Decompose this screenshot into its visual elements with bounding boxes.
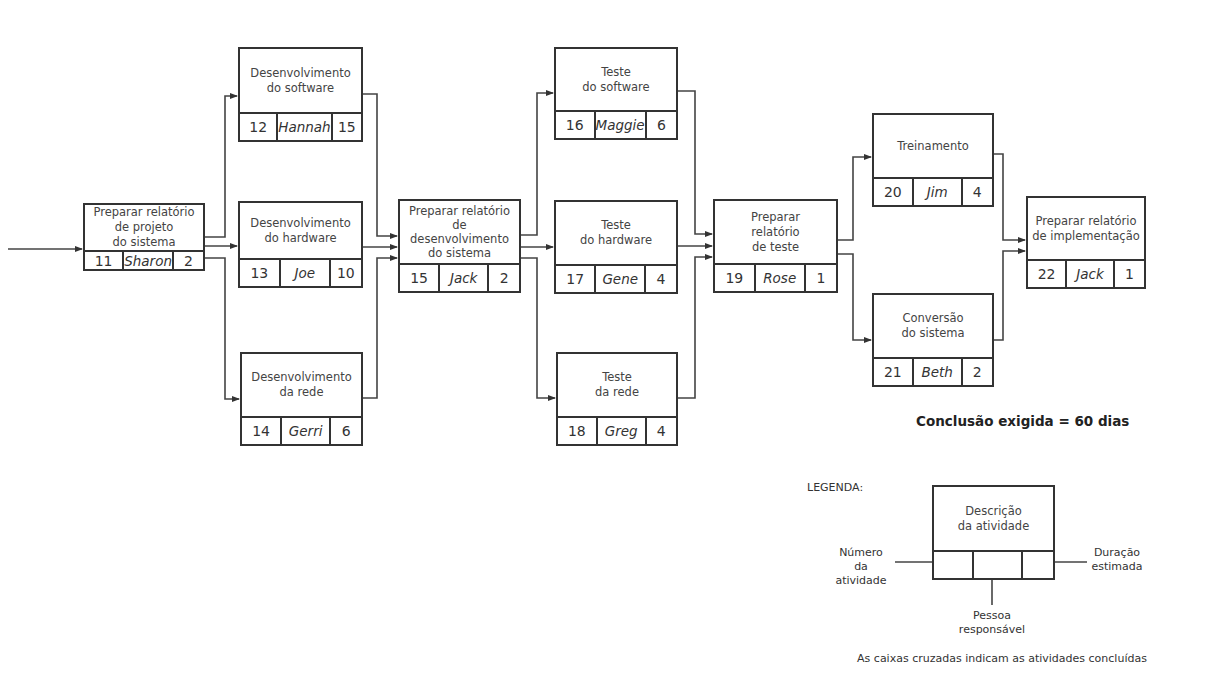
- activity-number: 19: [715, 265, 756, 291]
- activity-node-13: Desenvolvimento do hardware 13Joe10: [238, 201, 363, 288]
- activity-node-15: Preparar relatório de desenvolvimento do…: [398, 199, 521, 293]
- activity-description: Preparar relatório de desenvolvimento do…: [400, 201, 519, 263]
- activity-description: Preparar relatório de teste: [715, 201, 836, 263]
- activity-number: 14: [242, 418, 282, 444]
- activity-description: Desenvolvimento do hardware: [240, 203, 361, 258]
- legend-description: Descrição da atividade: [934, 487, 1053, 550]
- activity-duration: 1: [806, 265, 836, 291]
- responsible-person: Jack: [440, 265, 489, 291]
- activity-duration: 2: [489, 265, 519, 291]
- activity-number: 11: [85, 252, 124, 269]
- activity-description: Desenvolvimento do software: [240, 49, 361, 112]
- activity-node-17: Teste do hardware 17Gene4: [554, 200, 678, 294]
- responsible-person: Rose: [756, 265, 806, 291]
- activity-description: Treinamento: [874, 115, 992, 177]
- activity-description: Teste da rede: [558, 354, 676, 416]
- activity-duration: 4: [646, 266, 676, 292]
- legend-duration-label: Duração estimada: [1084, 546, 1150, 574]
- responsible-person: Jack: [1067, 261, 1115, 287]
- activity-node-20: Treinamento 20Jim4: [872, 113, 994, 207]
- activity-number: 16: [556, 112, 596, 138]
- activity-duration: 1: [1115, 261, 1144, 287]
- responsible-person: Gerri: [282, 418, 331, 444]
- activity-number: 18: [558, 418, 598, 444]
- responsible-person: Hannah: [278, 114, 332, 140]
- legend-footnote: As caixas cruzadas indicam as atividades…: [832, 652, 1172, 666]
- activity-duration: 2: [963, 359, 993, 385]
- activity-number: 15: [400, 265, 440, 291]
- activity-node-18: Teste da rede 18Greg4: [556, 352, 678, 446]
- activity-description: Conversão do sistema: [874, 295, 992, 357]
- activity-number: 22: [1028, 261, 1067, 287]
- activity-duration: 15: [333, 114, 361, 140]
- legend-number-label: Número da atividade: [828, 546, 894, 588]
- responsible-person: Maggie: [596, 112, 647, 138]
- activity-number: 13: [240, 260, 281, 286]
- activity-number: 12: [240, 114, 278, 140]
- activity-node-21: Conversão do sistema 21Beth2: [872, 293, 994, 387]
- activity-description: Teste do hardware: [556, 202, 676, 264]
- activity-node-16: Teste do software 16Maggie6: [554, 47, 678, 140]
- activity-node-12: Desenvolvimento do software 12Hannah15: [238, 47, 363, 142]
- activity-duration: 4: [963, 179, 993, 205]
- activity-node-19: Preparar relatório de teste 19Rose1: [713, 199, 838, 293]
- activity-description: Desenvolvimento da rede: [242, 354, 361, 416]
- responsible-person: Beth: [914, 359, 963, 385]
- responsible-person: Greg: [598, 418, 647, 444]
- responsible-person: Jim: [914, 179, 963, 205]
- activity-duration: 6: [331, 418, 361, 444]
- legend-person-label: Pessoa responsável: [952, 609, 1032, 637]
- activity-description: Teste do software: [556, 49, 676, 110]
- activity-duration: 10: [331, 260, 361, 286]
- responsible-person: Sharon: [124, 252, 174, 269]
- responsible-person: Gene: [596, 266, 646, 292]
- responsible-person: Joe: [281, 260, 331, 286]
- legend-box: Descrição da atividade: [932, 485, 1055, 580]
- legend-number-cell: [934, 552, 974, 578]
- activity-node-22: Preparar relatório de implementação 22Ja…: [1026, 196, 1146, 289]
- activity-node-11: Preparar relatório de projeto do sistema…: [83, 203, 205, 271]
- activity-duration: 2: [174, 252, 203, 269]
- activity-duration: 4: [647, 418, 677, 444]
- activity-description: Preparar relatório de projeto do sistema: [85, 205, 203, 250]
- activity-number: 17: [556, 266, 596, 292]
- activity-node-14: Desenvolvimento da rede 14Gerri6: [240, 352, 363, 446]
- legend-title: LEGENDA:: [807, 481, 863, 495]
- activity-number: 21: [874, 359, 914, 385]
- activity-description: Preparar relatório de implementação: [1028, 198, 1144, 259]
- legend-person-cell: [974, 552, 1023, 578]
- completion-requirement: Conclusão exigida = 60 dias: [916, 414, 1129, 428]
- activity-number: 20: [874, 179, 914, 205]
- activity-duration: 6: [647, 112, 676, 138]
- legend-duration-cell: [1023, 552, 1053, 578]
